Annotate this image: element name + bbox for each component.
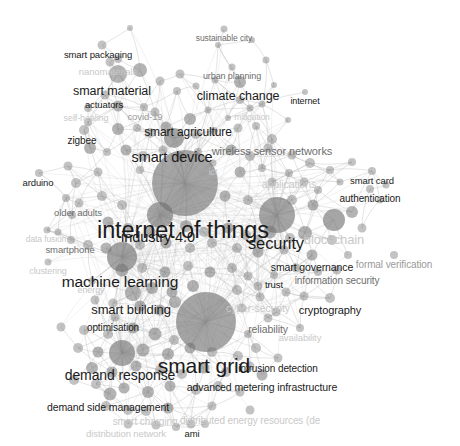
graph-node[interactable] — [326, 166, 334, 174]
graph-node[interactable] — [193, 83, 200, 90]
graph-node[interactable] — [162, 348, 174, 360]
graph-node-smart-grid[interactable] — [176, 292, 236, 352]
graph-node-cryptography[interactable] — [325, 293, 335, 303]
graph-node[interactable] — [128, 323, 139, 334]
graph-node[interactable] — [161, 122, 172, 133]
graph-node-industry-4-0[interactable] — [147, 202, 173, 228]
graph-node-data-fusion[interactable] — [44, 227, 51, 234]
graph-node[interactable] — [107, 367, 118, 378]
graph-node-zigbee[interactable] — [79, 125, 89, 135]
graph-node[interactable] — [94, 168, 103, 177]
graph-node-urban-planning[interactable] — [229, 64, 236, 71]
graph-node[interactable] — [172, 423, 180, 431]
graph-node[interactable] — [207, 347, 217, 357]
graph-node[interactable] — [185, 243, 195, 253]
graph-node[interactable] — [298, 226, 312, 240]
graph-node[interactable] — [300, 292, 309, 301]
graph-node[interactable] — [165, 381, 176, 392]
graph-node[interactable] — [246, 362, 255, 371]
graph-node-demand-response[interactable] — [109, 340, 135, 366]
graph-node[interactable] — [194, 148, 202, 156]
graph-node[interactable] — [101, 401, 111, 411]
graph-node[interactable] — [109, 299, 118, 308]
graph-node[interactable] — [123, 223, 133, 233]
graph-node[interactable] — [68, 211, 76, 219]
network-map-canvas[interactable]: sustainable citysmart packagingnanomater… — [0, 0, 460, 446]
graph-node-availability[interactable] — [296, 324, 304, 332]
graph-node[interactable] — [205, 267, 216, 278]
graph-node[interactable] — [305, 158, 315, 168]
graph-node[interactable] — [159, 146, 168, 155]
graph-node[interactable] — [116, 264, 129, 277]
graph-node[interactable] — [358, 224, 367, 233]
graph-node[interactable] — [348, 158, 356, 166]
graph-node[interactable] — [112, 123, 124, 135]
graph-node-intrusion-detection[interactable] — [274, 354, 283, 363]
graph-node[interactable] — [264, 226, 277, 239]
graph-node[interactable] — [314, 268, 322, 276]
graph-node[interactable] — [207, 238, 217, 248]
graph-node-sustainable-city[interactable] — [221, 26, 228, 33]
graph-node[interactable] — [146, 282, 158, 294]
graph-node[interactable] — [383, 182, 390, 189]
graph-node[interactable] — [199, 363, 210, 374]
graph-node[interactable] — [127, 25, 133, 31]
graph-node[interactable] — [233, 351, 243, 361]
graph-node-distribution-network[interactable] — [124, 420, 133, 429]
graph-node-formal-verification[interactable] — [390, 251, 398, 259]
graph-node-smart-charging[interactable] — [141, 406, 151, 416]
graph-node-reliability[interactable] — [264, 314, 273, 323]
graph-node-energy[interactable] — [89, 278, 96, 285]
graph-node[interactable] — [155, 365, 165, 375]
graph-node[interactable] — [282, 288, 291, 297]
graph-node[interactable] — [241, 230, 251, 240]
graph-node[interactable] — [160, 267, 171, 278]
graph-node[interactable] — [55, 229, 62, 236]
graph-node[interactable] — [117, 200, 127, 210]
graph-node[interactable] — [136, 166, 144, 174]
graph-node[interactable] — [113, 101, 124, 112]
graph-node[interactable] — [101, 243, 112, 254]
graph-node[interactable] — [180, 220, 192, 232]
graph-node-ami[interactable] — [187, 420, 196, 429]
graph-node[interactable] — [212, 77, 219, 84]
graph-node[interactable] — [152, 421, 161, 430]
graph-node-arduino[interactable] — [35, 169, 43, 177]
graph-node-internet[interactable] — [302, 89, 308, 95]
graph-node[interactable] — [185, 343, 196, 354]
graph-node[interactable] — [121, 145, 132, 156]
graph-node[interactable] — [163, 403, 174, 414]
graph-node[interactable] — [73, 343, 83, 353]
graph-node-smart-agriculture[interactable] — [184, 113, 196, 125]
graph-node[interactable] — [253, 247, 264, 258]
graph-node[interactable] — [263, 57, 270, 64]
graph-node[interactable] — [220, 191, 231, 202]
graph-node-advanced-metering-infrastructure[interactable] — [257, 370, 268, 381]
graph-node-climate-change[interactable] — [234, 76, 246, 88]
graph-node[interactable] — [280, 246, 289, 255]
graph-node-smartphone[interactable] — [67, 236, 75, 244]
graph-node[interactable] — [346, 206, 358, 218]
graph-node[interactable] — [161, 238, 172, 249]
graph-node-optimisation[interactable] — [111, 313, 120, 322]
graph-node[interactable] — [123, 405, 133, 415]
graph-node-self-healing[interactable] — [84, 104, 92, 112]
graph-node[interactable] — [288, 151, 297, 160]
graph-node-information-security[interactable] — [333, 266, 342, 275]
graph-node[interactable] — [249, 37, 255, 43]
graph-node-older-adults[interactable] — [75, 199, 84, 208]
graph-node-mitigation[interactable] — [247, 105, 254, 112]
graph-node[interactable] — [191, 129, 201, 139]
graph-node[interactable] — [258, 164, 266, 172]
graph-node[interactable] — [137, 263, 147, 273]
graph-node-wireless-sensor-networks[interactable] — [267, 134, 277, 144]
graph-node[interactable] — [300, 178, 309, 187]
graph-node-authentication[interactable] — [366, 185, 374, 193]
graph-node[interactable] — [254, 282, 263, 291]
graph-node[interactable] — [91, 379, 101, 389]
graph-node-smart-building[interactable] — [125, 285, 141, 301]
graph-node[interactable] — [223, 223, 234, 234]
graph-node-applications[interactable] — [285, 169, 293, 177]
graph-node-demand-side-management[interactable] — [104, 388, 117, 401]
graph-node[interactable] — [205, 107, 212, 114]
